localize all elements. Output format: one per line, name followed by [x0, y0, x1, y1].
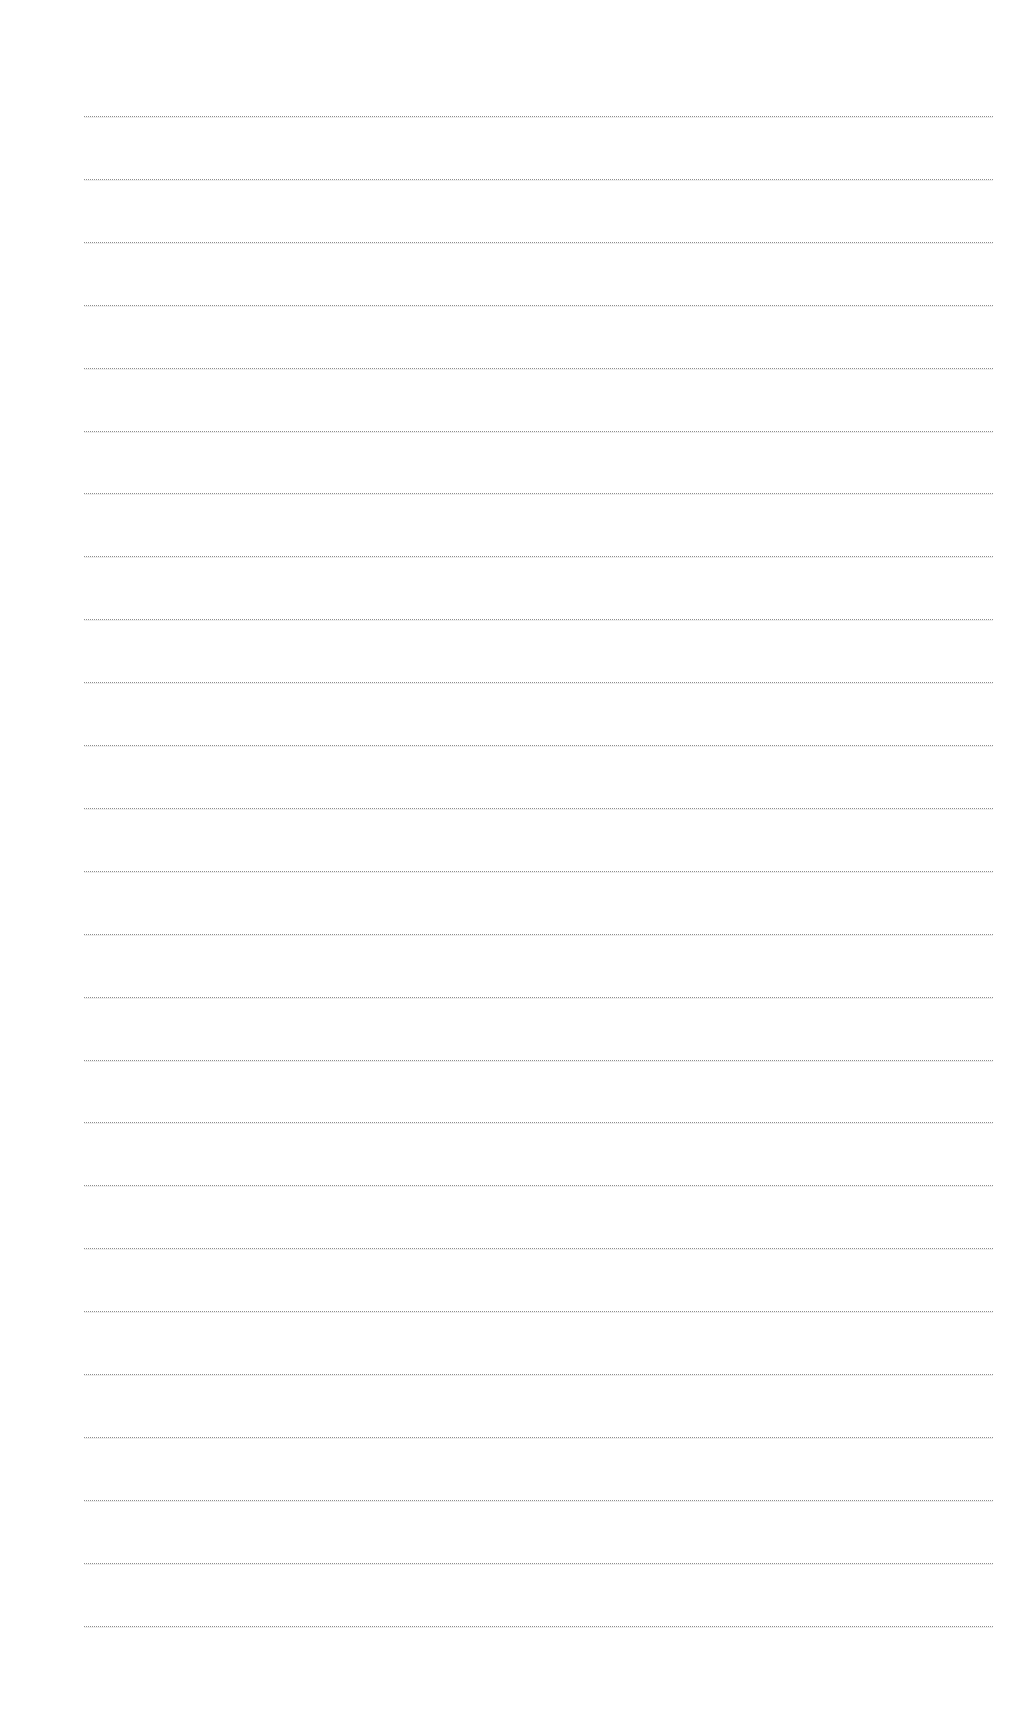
- lined-paper-sheet: [0, 0, 1018, 1723]
- ruled-line: [84, 305, 993, 306]
- ruled-line: [84, 493, 993, 494]
- ruled-line: [84, 745, 993, 746]
- ruled-line: [84, 179, 993, 180]
- ruled-line: [84, 242, 993, 243]
- ruled-line: [84, 1122, 993, 1123]
- ruled-line: [84, 682, 993, 683]
- ruled-line: [84, 1060, 993, 1061]
- ruled-line: [84, 116, 993, 117]
- ruled-line: [84, 368, 993, 369]
- ruled-line: [84, 1437, 993, 1438]
- ruled-line: [84, 556, 993, 557]
- ruled-line: [84, 1248, 993, 1249]
- ruled-line: [84, 1563, 993, 1564]
- ruled-line: [84, 871, 993, 872]
- ruled-line: [84, 1626, 993, 1627]
- ruled-line: [84, 1500, 993, 1501]
- ruled-line: [84, 808, 993, 809]
- ruled-line: [84, 1185, 993, 1186]
- ruled-line: [84, 934, 993, 935]
- ruled-line: [84, 1311, 993, 1312]
- ruled-line: [84, 619, 993, 620]
- ruled-line: [84, 431, 993, 432]
- ruled-line: [84, 1374, 993, 1375]
- ruled-line: [84, 997, 993, 998]
